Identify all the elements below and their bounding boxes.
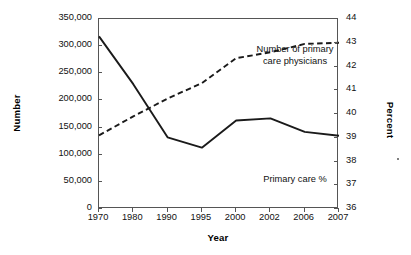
x-axis-tickmark-2007 (338, 208, 339, 212)
chart-container: 050,000100,000150,000200,000250,000300,0… (0, 0, 411, 255)
x-axis-tick-labels: 19701980199019952000200220062007 (98, 213, 338, 229)
y-axis-left-tickmark-6 (98, 45, 102, 46)
y-axis-left-tick-5: 250,000 (58, 68, 92, 77)
x-axis-tick-1990: 1990 (156, 213, 177, 222)
y-axis-right-tickmark-1 (334, 184, 338, 185)
y-axis-left-tickmark-2 (98, 154, 102, 155)
x-axis-tickmark-1995 (201, 208, 202, 212)
y-axis-right-title: Percent (385, 102, 396, 139)
y-axis-right-tick-7: 43 (346, 37, 356, 46)
x-axis-tick-2007: 2007 (328, 213, 349, 222)
y-axis-left-tickmark-3 (98, 127, 102, 128)
y-axis-right-tickmark-6 (334, 66, 338, 67)
y-axis-right-tick-8: 44 (346, 13, 356, 22)
x-axis-tickmark-2000 (235, 208, 236, 212)
y-axis-left-tickmark-4 (98, 99, 102, 100)
y-axis-left-tickmark-7 (98, 18, 102, 19)
y-axis-left-tick-7: 350,000 (58, 13, 92, 22)
y-axis-left-title: Number (11, 94, 22, 131)
y-axis-left-tick-6: 300,000 (58, 40, 92, 49)
y-axis-right-tick-labels: 363738394041424344 (346, 18, 376, 208)
x-axis-tickmark-2002 (269, 208, 270, 212)
y-axis-right-tickmark-2 (334, 161, 338, 162)
x-axis-tick-2002: 2002 (259, 213, 280, 222)
edge-artifact-dot (397, 158, 399, 160)
x-axis-title: Year (207, 232, 228, 243)
y-axis-right-tick-6: 42 (346, 61, 356, 70)
y-axis-right-tick-5: 41 (346, 85, 356, 94)
x-axis-tick-2006: 2006 (293, 213, 314, 222)
y-axis-left-tick-2: 100,000 (58, 149, 92, 158)
y-axis-left-tick-1: 50,000 (64, 176, 92, 185)
y-axis-right-tickmark-7 (334, 42, 338, 43)
y-axis-right-tickmark-3 (334, 137, 338, 138)
x-axis-tickmark-1980 (132, 208, 133, 212)
annotation-percent-line1: Primary care % (263, 174, 327, 186)
y-axis-right-tickmark-4 (334, 113, 338, 114)
y-axis-right-tickmark-5 (334, 89, 338, 90)
x-axis-tickmark-2006 (304, 208, 305, 212)
y-axis-right-tick-1: 37 (346, 180, 356, 189)
x-axis-tickmark-1970 (98, 208, 99, 212)
y-axis-right-tick-4: 40 (346, 108, 356, 117)
annotation-number-of-physicians: Number of primary care physicians (257, 44, 334, 67)
y-axis-left-tickmark-5 (98, 72, 102, 73)
x-axis-tickmark-1990 (167, 208, 168, 212)
y-axis-left-tick-4: 200,000 (58, 95, 92, 104)
y-axis-left-tickmark-1 (98, 181, 102, 182)
x-axis-tick-1970: 1970 (88, 213, 109, 222)
x-axis-tick-1995: 1995 (191, 213, 212, 222)
y-axis-right-tick-3: 39 (346, 132, 356, 141)
y-axis-left-tick-3: 150,000 (58, 122, 92, 131)
x-axis-tick-2000: 2000 (225, 213, 246, 222)
y-axis-left-tick-labels: 050,000100,000150,000200,000250,000300,0… (20, 18, 92, 208)
annotation-number-line2: care physicians (257, 56, 334, 68)
annotation-number-line1: Number of primary (257, 44, 334, 56)
x-axis-tick-1980: 1980 (122, 213, 143, 222)
y-axis-right-tickmark-8 (334, 18, 338, 19)
annotation-primary-care-percent: Primary care % (263, 174, 327, 186)
y-axis-right-tick-2: 38 (346, 156, 356, 165)
plot-area: Number of primary care physicians Primar… (98, 18, 338, 208)
